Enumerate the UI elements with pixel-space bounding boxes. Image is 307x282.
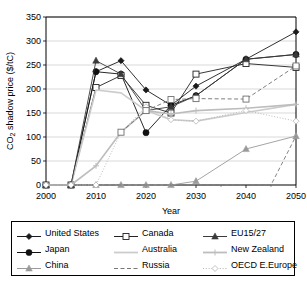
marker-square-open <box>143 108 149 114</box>
marker-plus <box>293 101 299 107</box>
legend-key-triangle-filled-icon <box>202 228 228 239</box>
y-tick-label: 250 <box>26 60 41 70</box>
legend-key-circle-filled-icon <box>16 244 42 255</box>
marker-triangle-filled <box>293 132 300 138</box>
legend-label: New Zealand <box>231 244 284 255</box>
marker-square-open <box>193 71 199 77</box>
y-tick-label: 200 <box>26 84 41 94</box>
series-canada <box>43 61 299 188</box>
plot-area: 050100150200250300350 200020102020203020… <box>0 0 307 215</box>
x-tick-label: 2020 <box>136 191 156 201</box>
legend-label: Russia <box>142 260 170 271</box>
chart-figure: 050100150200250300350 200020102020203020… <box>0 0 307 282</box>
y-tick-label: 300 <box>26 36 41 46</box>
marker-square-open <box>243 96 249 102</box>
y-tick-label: 0 <box>36 180 41 190</box>
marker-diamond-open <box>293 118 299 124</box>
legend-key-diamond-filled-icon <box>16 228 42 239</box>
marker-square-open <box>293 63 299 69</box>
y-tick-label: 150 <box>26 108 41 118</box>
legend-key-none-icon <box>113 260 139 271</box>
legend-grid: United StatesCanadaEU15/27JapanAustralia… <box>16 225 292 273</box>
series-line <box>46 136 296 185</box>
y-tick-label: 50 <box>31 156 41 166</box>
y-axis-ticks: 050100150200250300350 <box>26 12 46 190</box>
marker-square-open <box>193 96 199 102</box>
marker-diamond-open <box>193 118 199 124</box>
marker-triangle-filled <box>93 57 100 63</box>
x-tick-label: 2050 <box>286 191 306 201</box>
legend-key-square-open-icon <box>113 228 139 239</box>
chart-legend: United StatesCanadaEU15/27JapanAustralia… <box>11 221 295 276</box>
legend-label: China <box>45 260 69 271</box>
legend-item-china[interactable]: China <box>16 257 113 273</box>
legend-item-australia[interactable]: Australia <box>113 241 202 257</box>
legend-item-russia[interactable]: Russia <box>113 257 202 273</box>
legend-key-diamond-open-icon <box>202 260 228 271</box>
legend-label: United States <box>45 228 99 239</box>
legend-label: Canada <box>142 228 174 239</box>
x-tick-label: 2000 <box>36 191 56 201</box>
marker-circle-filled <box>143 130 149 136</box>
marker-circle-filled <box>26 249 32 255</box>
y-tick-label: 100 <box>26 132 41 142</box>
series-line <box>46 136 296 185</box>
marker-diamond-open <box>212 265 218 271</box>
legend-item-japan[interactable]: Japan <box>16 241 113 257</box>
legend-label: OECD E.Europe <box>231 260 297 271</box>
marker-square-open <box>123 233 129 239</box>
legend-item-eu15-27[interactable]: EU15/27 <box>202 225 294 241</box>
x-tick-label: 2030 <box>186 191 206 201</box>
marker-square-open <box>118 129 124 135</box>
marker-plus <box>212 249 218 255</box>
legend-label: Japan <box>45 244 70 255</box>
x-tick-label: 2040 <box>236 191 256 201</box>
x-axis-title: Year <box>162 206 180 215</box>
marker-diamond-filled <box>293 29 299 35</box>
series-russia-dashed-upper <box>118 63 299 135</box>
series-russia <box>46 136 296 185</box>
legend-label: Australia <box>142 244 177 255</box>
marker-triangle-filled <box>193 178 200 184</box>
x-tick-label: 2010 <box>86 191 106 201</box>
legend-item-oecd-e-europe[interactable]: OECD E.Europe <box>202 257 294 273</box>
legend-label: EU15/27 <box>231 228 266 239</box>
marker-square-open <box>168 97 174 103</box>
line-chart-svg: 050100150200250300350 200020102020203020… <box>0 0 307 215</box>
legend-key-none-icon <box>113 244 139 255</box>
legend-item-new-zealand[interactable]: New Zealand <box>202 241 294 257</box>
y-axis-title: CO2 shadow price ($/tC) <box>5 52 16 150</box>
legend-key-triangle-filled-icon <box>16 260 42 271</box>
legend-item-united-states[interactable]: United States <box>16 225 113 241</box>
marker-diamond-filled <box>26 233 32 239</box>
data-series-layer <box>43 29 300 188</box>
marker-diamond-open <box>168 117 174 123</box>
legend-item-canada[interactable]: Canada <box>113 225 202 241</box>
y-tick-label: 350 <box>26 12 41 22</box>
series-line <box>121 66 296 132</box>
legend-key-plus-icon <box>202 244 228 255</box>
